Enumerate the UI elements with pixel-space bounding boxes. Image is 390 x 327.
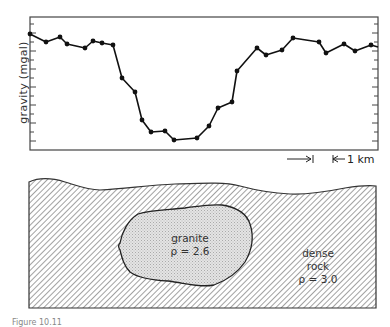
data-point: [195, 136, 200, 141]
data-point: [230, 100, 235, 105]
granite-name: granite: [150, 232, 230, 245]
data-point: [133, 90, 138, 95]
dense-rock-name-2: rock: [278, 260, 358, 273]
data-point: [91, 39, 96, 44]
dense-rock-name-1: dense: [278, 247, 358, 260]
data-point: [163, 129, 168, 134]
dense-rock-label: dense rock ρ = 3.0: [278, 247, 358, 286]
data-point: [235, 69, 240, 74]
data-point: [172, 138, 177, 143]
data-point: [58, 35, 63, 40]
data-point: [44, 40, 49, 45]
scale-label: 1 km: [347, 153, 375, 166]
gravity-chart: [28, 17, 378, 150]
data-point: [342, 42, 347, 47]
data-point: [353, 49, 358, 54]
data-point: [264, 53, 269, 58]
data-point: [317, 40, 322, 45]
gravity-profile-line: [30, 34, 378, 140]
dense-rock-density: ρ = 3.0: [278, 273, 358, 286]
data-point: [324, 51, 329, 56]
data-point: [255, 46, 260, 51]
y-axis-label: gravity (mgal): [17, 28, 30, 138]
data-point: [140, 118, 145, 123]
data-point: [65, 42, 70, 47]
data-point: [149, 130, 154, 135]
left-axis-ticks: [30, 24, 36, 141]
data-points: [28, 32, 374, 143]
data-point: [111, 43, 116, 48]
data-point: [291, 36, 296, 41]
right-axis-ticks: [372, 24, 378, 141]
data-point: [216, 106, 221, 111]
granite-density: ρ = 2.6: [150, 245, 230, 258]
data-point: [280, 48, 285, 53]
data-point: [120, 76, 125, 81]
data-point: [83, 46, 88, 51]
figure-caption: Figure 10.11: [12, 318, 62, 327]
scale-bar: [287, 155, 345, 163]
data-point: [100, 41, 105, 46]
granite-label: granite ρ = 2.6: [150, 232, 230, 258]
data-point: [207, 124, 212, 129]
data-point: [369, 43, 374, 48]
